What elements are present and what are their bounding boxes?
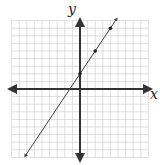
data-point bbox=[109, 26, 113, 30]
x-axis-label: x bbox=[150, 86, 158, 102]
coordinate-plane: y x bbox=[0, 0, 160, 165]
y-axis-label: y bbox=[67, 1, 77, 17]
data-point bbox=[93, 49, 97, 53]
data-point bbox=[78, 72, 82, 76]
